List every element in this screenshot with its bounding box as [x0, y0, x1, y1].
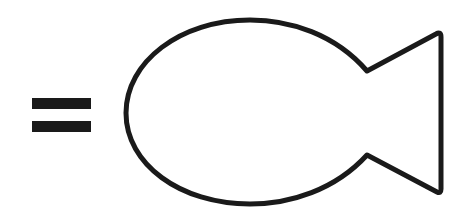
fish-icon — [0, 0, 469, 214]
equation-scene — [0, 0, 469, 214]
fish-outline — [126, 20, 441, 204]
